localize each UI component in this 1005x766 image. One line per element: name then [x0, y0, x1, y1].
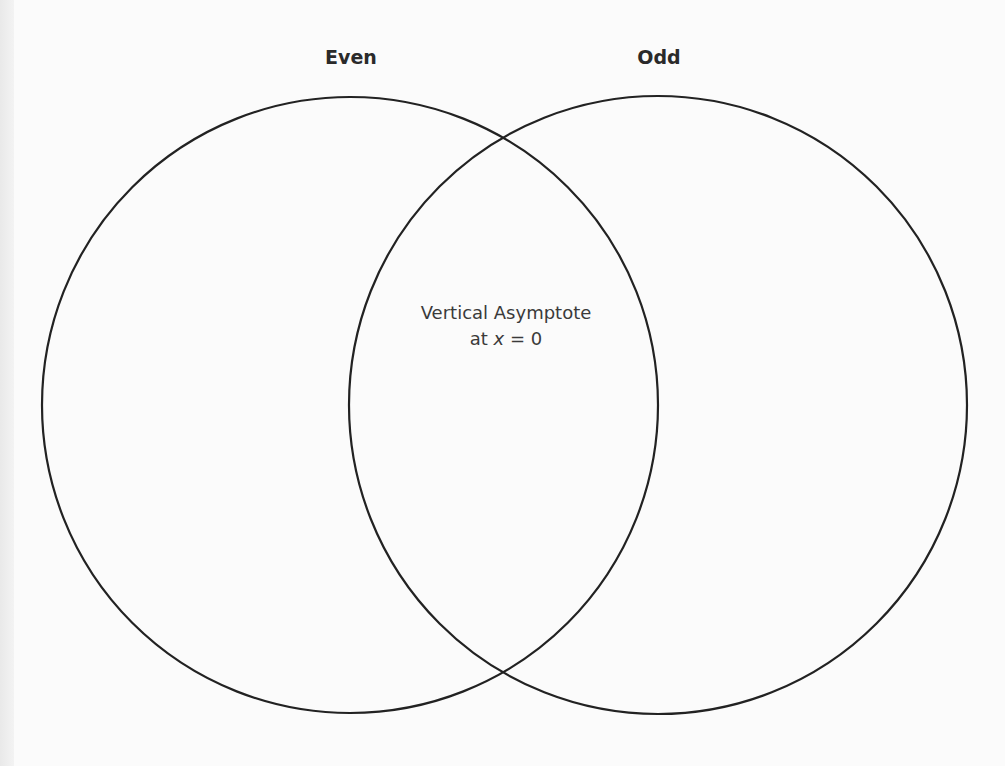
intersection-line-2: at x = 0: [421, 326, 592, 352]
venn-diagram-canvas: Even Odd Vertical Asymptote at x = 0: [0, 0, 1005, 766]
odd-set-label: Odd: [637, 46, 680, 68]
intersection-variable: x: [494, 328, 505, 349]
intersection-line-2-prefix: at: [470, 328, 494, 349]
intersection-region-label: Vertical Asymptote at x = 0: [421, 300, 592, 352]
even-set-label: Even: [325, 46, 377, 68]
intersection-line-2-suffix: = 0: [504, 328, 542, 349]
venn-diagram: [0, 0, 1005, 766]
intersection-line-1: Vertical Asymptote: [421, 300, 592, 326]
